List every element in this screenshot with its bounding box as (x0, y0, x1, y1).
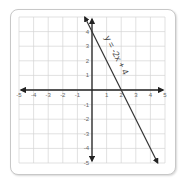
svg-text:-5: -5 (84, 160, 90, 166)
svg-text:-1: -1 (84, 102, 90, 108)
svg-text:-4: -4 (84, 145, 90, 151)
svg-text:5: 5 (163, 92, 167, 98)
svg-text:-1: -1 (75, 92, 81, 98)
svg-text:1: 1 (105, 92, 109, 98)
svg-text:-3: -3 (84, 131, 90, 137)
svg-text:-4: -4 (31, 92, 37, 98)
svg-text:-2: -2 (60, 92, 66, 98)
svg-text:-2: -2 (84, 116, 90, 122)
svg-text:4: 4 (149, 92, 153, 98)
svg-text:-5: -5 (16, 92, 22, 98)
svg-text:3: 3 (134, 92, 138, 98)
axes (21, 19, 163, 161)
svg-text:-3: -3 (46, 92, 52, 98)
coordinate-plane: -5-4-3-2-1123454321-1-2-3-4-5 y = -2x + … (0, 0, 187, 185)
